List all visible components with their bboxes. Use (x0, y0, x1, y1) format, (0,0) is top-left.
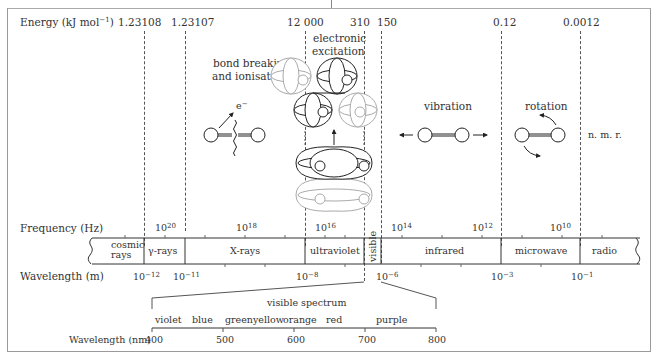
frequency-tick-3: 1014 (391, 222, 412, 234)
ionisation-molecule-icon (204, 113, 265, 156)
frequency-tick-0: 1020 (155, 222, 176, 234)
frequency-tick-1: 1018 (236, 222, 257, 234)
wavelength-nm-tick-700: 700 (358, 334, 376, 346)
vibration-molecule-icon (400, 128, 487, 142)
band-infrared: infrared (425, 245, 464, 257)
color-yellow: yellow (253, 314, 284, 326)
rotation-molecule-icon (515, 115, 565, 156)
frequency-tick-2: 1016 (315, 222, 336, 234)
wavelength-nm-tick-500: 500 (216, 334, 234, 346)
color-orange: orange (283, 314, 317, 326)
wavelength-m-tick-4: 10−3 (491, 271, 513, 283)
visible-spectrum-title: visible spectrum (267, 297, 346, 309)
frequency-tick-4: 1012 (472, 222, 493, 234)
wavelength-m-tick-0: 10−12 (133, 271, 160, 283)
color-violet: violet (155, 314, 182, 326)
wavelength-nm-tick-800: 800 (428, 334, 446, 346)
color-purple: purple (376, 314, 407, 326)
wavelength-nm-tick-400: 400 (145, 334, 163, 346)
band-microwave: microwave (515, 245, 567, 257)
frequency-axis-label: Frequency (Hz) (20, 222, 103, 234)
wavelength-m-axis-label: Wavelength (m) (20, 270, 104, 282)
color-blue: blue (192, 314, 213, 326)
wavelength-m-tick-1: 10−11 (173, 271, 200, 283)
color-green: green (225, 314, 253, 326)
band-radio: radio (592, 245, 617, 257)
wavelength-m-tick-3: 10−6 (376, 271, 398, 283)
band-ultraviolet: ultraviolet (310, 245, 360, 257)
band-gamma-rays: γ-rays (148, 245, 177, 257)
orbital-icons (271, 58, 377, 211)
band-cosmic-rays: cosmicrays (111, 240, 144, 260)
color-red: red (326, 314, 342, 326)
wavelength-m-tick-2: 10−8 (296, 271, 318, 283)
wavelength-nm-tick-600: 600 (287, 334, 305, 346)
wavelength-nm-axis-label: Wavelength (nm) (69, 334, 151, 346)
band-visible: visible (367, 231, 379, 262)
wavelength-m-tick-5: 10−1 (571, 271, 593, 283)
frequency-tick-5: 1010 (550, 222, 571, 234)
band-x-rays: X-rays (230, 245, 260, 257)
